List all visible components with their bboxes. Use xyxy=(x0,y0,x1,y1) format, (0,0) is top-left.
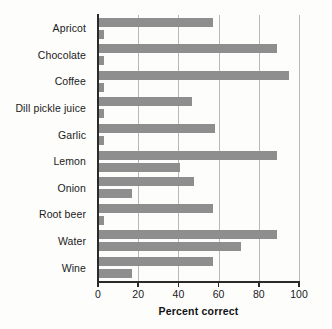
bar xyxy=(98,163,180,172)
gridline xyxy=(299,15,300,281)
y-axis-label: Water xyxy=(0,228,92,255)
bar xyxy=(98,151,277,160)
bar-group xyxy=(98,44,299,71)
bar xyxy=(98,177,194,186)
bars-layer xyxy=(98,15,299,281)
bar xyxy=(98,204,213,213)
bar-chart: ApricotChocolateCoffeeDill pickle juiceG… xyxy=(0,0,332,329)
x-tick-mark xyxy=(178,282,180,287)
x-tick-mark xyxy=(97,282,99,287)
x-axis-line xyxy=(97,281,300,283)
bar xyxy=(98,189,132,198)
bar xyxy=(98,230,277,239)
bar-group xyxy=(98,124,299,151)
y-axis-label: Lemon xyxy=(0,148,92,175)
y-axis-label: Garlic xyxy=(0,121,92,148)
bar xyxy=(98,242,241,251)
bar xyxy=(98,18,213,27)
x-axis-title: Percent correct xyxy=(98,305,299,317)
bar xyxy=(98,71,289,80)
y-axis-label: Wine xyxy=(0,254,92,281)
x-tick-label: 40 xyxy=(173,288,185,300)
y-axis-label: Coffee xyxy=(0,68,92,95)
y-axis-label: Onion xyxy=(0,175,92,202)
x-tick-mark xyxy=(137,282,139,287)
bar xyxy=(98,109,104,118)
y-axis-label: Root beer xyxy=(0,201,92,228)
x-tick-label: 20 xyxy=(132,288,144,300)
bar-group xyxy=(98,257,299,284)
bar-group xyxy=(98,18,299,45)
bar xyxy=(98,30,104,39)
x-tick-label: 80 xyxy=(253,288,265,300)
bar xyxy=(98,136,104,145)
bar xyxy=(98,257,213,266)
bar xyxy=(98,216,104,225)
bar-group xyxy=(98,177,299,204)
bar-group xyxy=(98,97,299,124)
y-axis-label: Apricot xyxy=(0,15,92,42)
x-tick-label: 60 xyxy=(213,288,225,300)
plot-area xyxy=(98,15,299,281)
bar xyxy=(98,269,132,278)
bar-group xyxy=(98,204,299,231)
bar xyxy=(98,97,192,106)
y-axis-label: Dill pickle juice xyxy=(0,95,92,122)
y-axis-category-labels: ApricotChocolateCoffeeDill pickle juiceG… xyxy=(0,15,92,281)
y-axis-line xyxy=(97,14,99,282)
x-tick-mark xyxy=(218,282,220,287)
bar xyxy=(98,44,277,53)
bar-group xyxy=(98,230,299,257)
bar xyxy=(98,83,104,92)
bar-group xyxy=(98,71,299,98)
x-tick-mark xyxy=(258,282,260,287)
x-tick-mark xyxy=(298,282,300,287)
bar xyxy=(98,124,215,133)
x-tick-label: 0 xyxy=(95,288,101,300)
bar xyxy=(98,56,104,65)
bar-group xyxy=(98,151,299,178)
y-axis-label: Chocolate xyxy=(0,42,92,69)
x-tick-label: 100 xyxy=(290,288,308,300)
